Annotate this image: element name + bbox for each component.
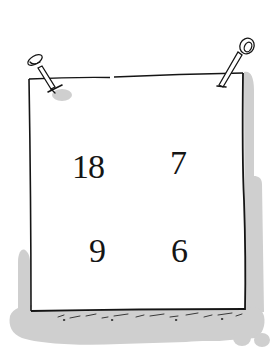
sign-illustration: 18 7 9 6 (0, 0, 278, 347)
board (29, 73, 245, 311)
sign-drawing (0, 0, 278, 347)
number-bottom-left: 9 (89, 234, 105, 268)
number-top-left: 18 (72, 150, 104, 184)
nail-icon (26, 53, 62, 93)
number-bottom-right: 6 (171, 234, 187, 268)
number-top-right: 7 (170, 146, 186, 180)
